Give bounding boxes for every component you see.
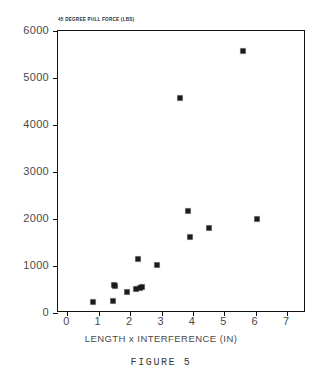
scatter-point — [206, 226, 211, 231]
x-axis-tick-label: 0 — [54, 315, 78, 327]
scatter-point — [255, 217, 260, 222]
y-axis-tick-label: 0 — [5, 306, 49, 318]
y-axis-tick-label: 6000 — [5, 24, 49, 36]
scatter-point — [178, 95, 183, 100]
scatter-point — [134, 287, 139, 292]
scatter-point — [186, 208, 191, 213]
y-axis-tick — [53, 125, 58, 126]
x-axis-tick-label: 3 — [149, 315, 173, 327]
scatter-point — [137, 285, 142, 290]
y-axis-tick — [53, 31, 58, 32]
scatter-point — [110, 299, 115, 304]
scatter-point — [136, 256, 141, 261]
x-axis-tick-label: 7 — [274, 315, 298, 327]
x-axis-tick-label: 6 — [243, 315, 267, 327]
x-axis-tick-label: 4 — [180, 315, 204, 327]
scatter-point — [154, 263, 159, 268]
y-axis-tick — [53, 313, 58, 314]
plot-area — [57, 30, 305, 312]
y-axis-tick — [53, 219, 58, 220]
x-axis-title: LENGTH x INTERFERENCE (IN) — [0, 333, 322, 344]
scatter-point — [187, 234, 192, 239]
y-axis-tick-label: 3000 — [5, 165, 49, 177]
y-axis-tick-label: 4000 — [5, 118, 49, 130]
scatter-point — [241, 48, 246, 53]
y-axis-tick-label: 2000 — [5, 212, 49, 224]
scatter-point — [140, 285, 145, 290]
figure-caption: FIGURE 5 — [0, 357, 322, 368]
scatter-point — [90, 300, 95, 305]
scatter-point — [111, 282, 116, 287]
x-axis-tick-label: 2 — [117, 315, 141, 327]
y-axis-tick — [53, 78, 58, 79]
scatter-point — [125, 290, 130, 295]
scatter-points — [58, 31, 304, 311]
x-axis-tick-label: 1 — [86, 315, 110, 327]
y-axis-tick-label: 5000 — [5, 71, 49, 83]
figure-container: 45 DEGREE PULL FORCE (LBS) 0100020003000… — [0, 0, 322, 386]
x-axis-tick-label: 5 — [211, 315, 235, 327]
y-axis-tick — [53, 266, 58, 267]
y-axis-tick-label: 1000 — [5, 259, 49, 271]
y-axis-tick — [53, 172, 58, 173]
scatter-point — [113, 284, 118, 289]
chart-title: 45 DEGREE PULL FORCE (LBS) — [58, 16, 134, 22]
